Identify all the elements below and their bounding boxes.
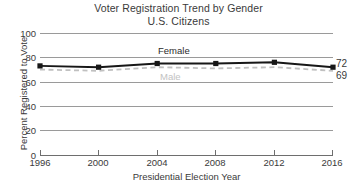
y-tick-label-40: 40 [8, 101, 36, 112]
x-tick-label-2000: 2000 [78, 157, 118, 168]
series-label-female: Female [158, 45, 190, 56]
chart-canvas: Voter Registration Trend by Gender U.S. … [0, 0, 357, 188]
series-label-male: Male [160, 71, 181, 82]
end-value-male: 69 [336, 70, 347, 81]
y-axis-title: Percent Registered to Vote [18, 19, 29, 169]
x-tick-label-1996: 1996 [20, 157, 60, 168]
x-axis-title: Presidential Election Year [40, 171, 333, 182]
chart-title-block: Voter Registration Trend by Gender U.S. … [0, 2, 357, 27]
chart-subtitle: U.S. Citizens [0, 15, 357, 28]
end-value-female: 72 [336, 58, 347, 69]
x-tick-label-2012: 2012 [254, 157, 294, 168]
y-tick-label-60: 60 [8, 77, 36, 88]
x-tick-label-2008: 2008 [195, 157, 235, 168]
chart-title: Voter Registration Trend by Gender [0, 2, 357, 15]
x-axis-line [40, 155, 333, 156]
y-tick-label-100: 100 [8, 28, 36, 39]
y-tick-label-80: 80 [8, 52, 36, 63]
y-tick-label-20: 20 [8, 125, 36, 136]
series-line-female [40, 62, 333, 67]
x-tick-label-2004: 2004 [137, 157, 177, 168]
x-tick-label-2016: 2016 [312, 157, 352, 168]
